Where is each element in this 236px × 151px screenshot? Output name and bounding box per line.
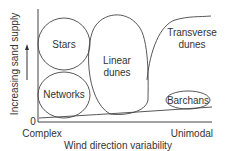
transverse-label-line1: Transverse bbox=[167, 27, 217, 38]
linear-label-line2: dunes bbox=[103, 67, 130, 78]
barchans-label: Barchans bbox=[167, 95, 209, 106]
stars-label: Stars bbox=[52, 39, 75, 50]
x-axis-title: Wind direction variability bbox=[64, 140, 172, 151]
linear-label-line1: Linear bbox=[103, 55, 131, 66]
origin-label: 0 bbox=[30, 116, 36, 127]
x-right-label: Unimodal bbox=[171, 128, 213, 139]
x-left-label: Complex bbox=[22, 128, 61, 139]
y-axis-title: Increasing sand supply bbox=[9, 13, 20, 115]
dune-diagram: Stars Networks Linear dunes Transverse d… bbox=[0, 0, 236, 151]
arrow-head-icon bbox=[25, 44, 29, 50]
transverse-label-line2: dunes bbox=[178, 39, 205, 50]
networks-label: Networks bbox=[43, 89, 85, 100]
